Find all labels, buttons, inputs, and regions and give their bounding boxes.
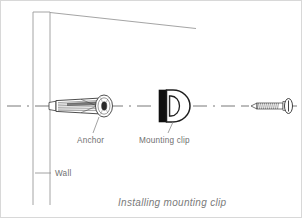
screw-group: [251, 99, 293, 114]
mounting-clip-leader-line: [168, 122, 173, 133]
anchor-leader-line: [93, 117, 99, 133]
wall-perspective-top-edge: [50, 13, 196, 29]
screw-tip: [251, 103, 257, 109]
wall-label-group: Wall: [35, 169, 71, 178]
anchor-label: Anchor: [77, 136, 104, 145]
mounting-clip-label: Mounting clip: [139, 136, 190, 145]
wall-label: Wall: [55, 169, 71, 178]
anchor-tip: [49, 101, 56, 111]
figure-caption: Installing mounting clip: [118, 197, 227, 208]
anchor-head-bore: [102, 102, 107, 110]
illustration-figure: Anchor Mounting clip: [0, 0, 302, 218]
installing-mounting-clip-drawing: Anchor Mounting clip: [1, 1, 301, 217]
anchor-sleeve-body: [56, 98, 98, 114]
anchor-group: Anchor: [49, 95, 113, 145]
clip-back-plate: [159, 90, 167, 122]
mounting-clip-group: Mounting clip: [139, 90, 190, 145]
